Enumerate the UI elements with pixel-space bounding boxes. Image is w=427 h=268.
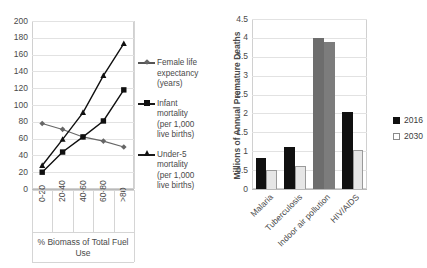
- legend-entry-under5-mortality: Under-5 mortality (per 1,000 live births…: [138, 150, 214, 192]
- left-datapoint-square: [101, 118, 106, 123]
- right-gridline: [252, 95, 367, 96]
- left-plot-right-border: [134, 21, 135, 189]
- left-y-tick-label: 120: [2, 84, 28, 93]
- square-marker-icon: [144, 100, 150, 106]
- left-x-category-label: 60-80: [98, 180, 108, 202]
- left-axis-frame-line: [32, 232, 134, 233]
- right-gridline: [252, 189, 367, 190]
- bar-malaria-2016: [256, 158, 267, 189]
- legend-entry-female-life-expectancy: Female life expectancy (years): [138, 58, 214, 90]
- right-gridline: [252, 76, 367, 77]
- bar-indoor-air-pollution-2030: [324, 42, 335, 189]
- left-x-category-label: 20-40: [57, 180, 67, 202]
- left-y-tick-label: 0: [2, 185, 28, 194]
- left-x-category-label: 0-20: [37, 185, 47, 202]
- left-category-separator: [114, 190, 115, 232]
- triangle-marker-icon: [144, 150, 150, 156]
- left-axis-frame-line: [32, 190, 33, 232]
- left-series-line: [42, 90, 124, 172]
- left-y-tick-label: 80: [2, 117, 28, 126]
- legend-label-line: Under-5: [157, 150, 214, 161]
- right-gridline: [252, 19, 367, 20]
- legend-label-line: expectancy: [157, 69, 214, 80]
- left-y-tick-label: 100: [2, 101, 28, 110]
- left-series-group: [32, 21, 134, 189]
- right-y-axis-title: Millions of Annual Premature Deaths: [232, 21, 243, 191]
- legend-label-line: live births): [157, 181, 214, 192]
- figure-two-panel: 200180160140120100806040200 0-2020-4040-…: [0, 0, 427, 268]
- legend-entry-infant-mortality: Infant mortality (per 1,000 live births): [138, 99, 214, 141]
- chart-panel-premature-deaths: 4.543.532.521.510.50 Millions of Annual …: [214, 0, 427, 268]
- left-datapoint-triangle: [121, 40, 127, 46]
- legend-label-2030: 2030: [404, 128, 423, 144]
- left-x-axis-title-line2: Use: [14, 248, 152, 259]
- bar-hiv-aids-2030: [353, 150, 364, 189]
- legend-label-line: Infant: [157, 99, 214, 110]
- left-y-tick-label: 160: [2, 50, 28, 59]
- left-datapoint-square: [60, 149, 65, 154]
- left-series-line: [42, 44, 124, 166]
- right-gridline: [252, 38, 367, 39]
- bar-tuberculosis-2016: [284, 147, 295, 189]
- right-chart-legend: 2016 2030: [393, 112, 423, 144]
- legend-swatch-2016-icon: [393, 117, 400, 124]
- left-datapoint-square: [80, 134, 85, 139]
- left-category-separator: [93, 190, 94, 232]
- left-y-tick-label: 40: [2, 151, 28, 160]
- legend-label-line: (per 1,000: [157, 171, 214, 182]
- legend-label-line: (years): [157, 79, 214, 90]
- left-axis-frame-line: [134, 190, 135, 232]
- left-y-tick-label: 180: [2, 33, 28, 42]
- legend-label-line: mortality: [157, 109, 214, 120]
- bar-indoor-air-pollution-2016: [313, 38, 324, 189]
- left-y-tick-label: 140: [2, 67, 28, 76]
- left-y-tick-label: 60: [2, 134, 28, 143]
- left-datapoint-square: [40, 170, 45, 175]
- legend-entry-2016: 2016: [393, 112, 423, 128]
- bar-malaria-2030: [266, 170, 277, 189]
- bar-tuberculosis-2030: [295, 166, 306, 189]
- legend-swatch-2030-icon: [393, 133, 400, 140]
- left-y-tick-label: 200: [2, 17, 28, 26]
- left-category-separator: [73, 190, 74, 232]
- left-axis-frame-line: [32, 262, 134, 263]
- left-datapoint-diamond: [121, 144, 127, 150]
- legend-label-line: Female life: [157, 58, 214, 69]
- chart-panel-biomass-health: 200180160140120100806040200 0-2020-4040-…: [0, 0, 214, 268]
- left-datapoint-diamond: [60, 127, 66, 133]
- left-x-category-label: 40-60: [78, 180, 88, 202]
- right-gridline: [252, 57, 367, 58]
- left-x-axis-title-line1: % Biomass of Total Fuel: [14, 237, 152, 248]
- left-axis-frame-line: [32, 190, 134, 191]
- left-y-tick-label: 20: [2, 168, 28, 177]
- legend-label-2016: 2016: [404, 112, 423, 128]
- left-category-separator: [52, 190, 53, 232]
- legend-label-line: live births): [157, 130, 214, 141]
- bar-hiv-aids-2016: [342, 112, 353, 189]
- legend-entry-2030: 2030: [393, 128, 423, 144]
- legend-label-line: mortality: [157, 160, 214, 171]
- legend-label-line: (per 1,000: [157, 120, 214, 131]
- left-chart-legend: Female life expectancy (years) Infant mo…: [138, 58, 214, 201]
- left-datapoint-diamond: [101, 138, 107, 144]
- left-datapoint-diamond: [39, 121, 45, 127]
- left-datapoint-square: [121, 87, 126, 92]
